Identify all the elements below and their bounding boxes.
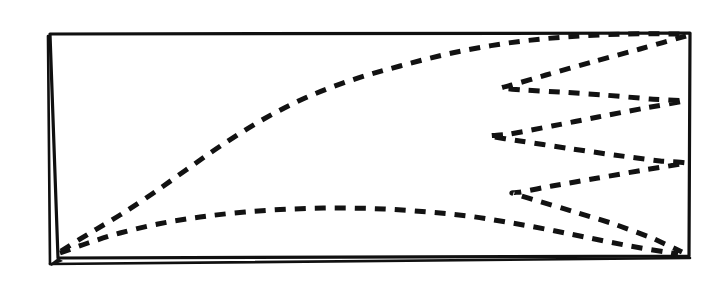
- paper-background: [0, 0, 724, 290]
- diagram-canvas: [0, 0, 724, 290]
- figure-root: A hand-inked rectangular frame enclosing…: [0, 0, 724, 290]
